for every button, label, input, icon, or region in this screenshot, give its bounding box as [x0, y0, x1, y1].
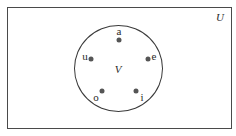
universal-set-label: U — [216, 12, 224, 23]
element-label-e: e — [152, 51, 157, 62]
element-dot-u — [89, 57, 94, 62]
element-dot-o — [100, 89, 105, 94]
element-dot-a — [117, 38, 122, 43]
element-dot-e — [146, 57, 151, 62]
venn-diagram: U V a e i o u — [0, 0, 236, 136]
element-label-o: o — [93, 92, 99, 103]
element-label-u: u — [82, 51, 88, 62]
element-label-i: i — [140, 92, 143, 103]
element-label-a: a — [117, 26, 122, 37]
set-v-label: V — [115, 64, 122, 75]
element-dot-i — [134, 89, 139, 94]
